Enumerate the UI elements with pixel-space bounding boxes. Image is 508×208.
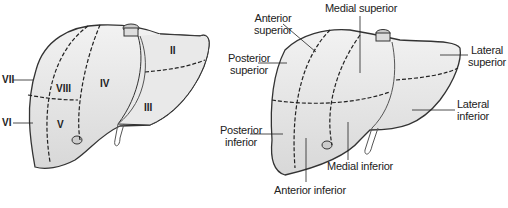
label-line: Posterior (218, 124, 264, 136)
segment-iii-label: III (144, 102, 152, 113)
label-line: Lateral (452, 98, 494, 110)
segment-vii-label: VII (2, 74, 14, 85)
segment-iv-label: IV (100, 78, 109, 89)
label-posterior-inferior: Posterior inferior (218, 124, 264, 148)
label-line: superior (250, 24, 296, 36)
label-lateral-inferior: Lateral inferior (452, 98, 494, 122)
right-liver (250, 16, 468, 182)
label-anterior-superior: Anterior superior (250, 12, 296, 36)
label-line: superior (226, 64, 272, 76)
label-line: Lateral (466, 44, 508, 56)
label-anterior-inferior: Anterior inferior (268, 184, 352, 196)
left-liver (13, 24, 209, 168)
label-line: inferior (452, 110, 494, 122)
segment-viii-label: VIII (56, 83, 71, 94)
label-line: Anterior (250, 12, 296, 24)
segment-ii-label: II (170, 45, 176, 56)
label-line: superior (466, 56, 508, 68)
label-medial-superior: Medial superior (320, 2, 402, 14)
label-medial-inferior: Medial inferior (320, 160, 400, 172)
label-line: inferior (218, 136, 264, 148)
segment-vi-label: VI (2, 117, 11, 128)
label-line: Posterior (226, 52, 272, 64)
label-lateral-superior: Lateral superior (466, 44, 508, 68)
segment-v-label: V (57, 119, 64, 130)
label-posterior-superior: Posterior superior (226, 52, 272, 76)
